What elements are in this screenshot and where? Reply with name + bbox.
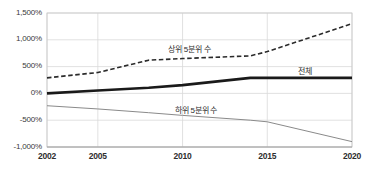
x-tick-label: 2015 <box>247 151 287 161</box>
x-tick-label: 2010 <box>163 151 203 161</box>
y-tick-label: -500% <box>20 115 42 124</box>
y-tick-label: 1,000% <box>16 34 42 43</box>
plot-area-background <box>47 13 352 147</box>
series-label-0: 상위 5분위 수 <box>168 43 210 54</box>
y-tick-label: -1,000% <box>14 142 42 151</box>
y-tick-label: 1,500% <box>16 8 42 17</box>
series-label-2: 하위 5분위 수 <box>175 104 217 115</box>
y-tick-label: 0% <box>31 88 42 97</box>
x-tick-label: 2002 <box>27 151 67 161</box>
quintile-trend-line-chart <box>0 0 367 171</box>
series-label-1: 전체 <box>298 65 312 76</box>
y-tick-label: 500% <box>22 61 42 70</box>
plot-background-group <box>47 13 352 147</box>
chart-figure: 1,500%1,000%500%0%-500%-1,000% 200220052… <box>0 0 367 171</box>
x-tick-label: 2005 <box>78 151 118 161</box>
x-tick-label: 2020 <box>332 151 367 161</box>
